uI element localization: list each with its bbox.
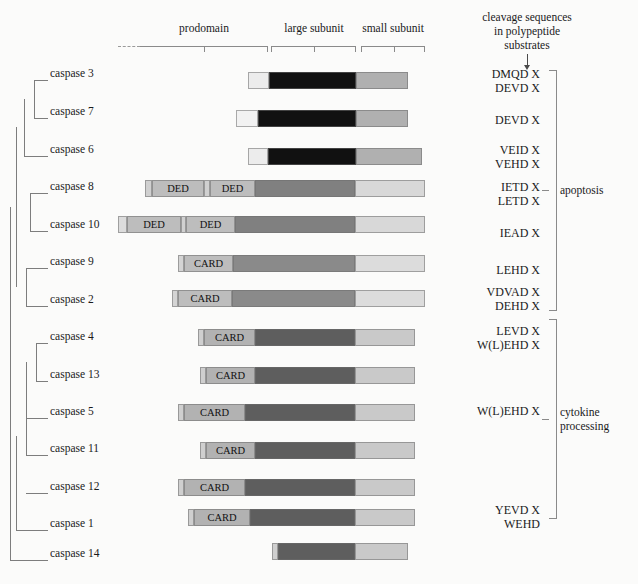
group-tick-apoptosis — [542, 190, 549, 191]
cleavage-header-line2: in polypeptide — [468, 24, 586, 38]
segment-prodomain-caspase-3 — [248, 72, 269, 89]
segment-small-subunit-caspase-11 — [355, 442, 415, 459]
segment-small-subunit-caspase-9 — [355, 255, 425, 272]
protein-bar-caspase-11[interactable]: CARD — [0, 442, 638, 459]
segment-large-subunit-caspase-14 — [278, 543, 355, 560]
protein-bar-caspase-7[interactable] — [0, 110, 638, 127]
segment-card-caspase-12: CARD — [184, 479, 245, 496]
group-label-apoptosis: apoptosis — [560, 183, 603, 197]
segment-large-subunit-caspase-9 — [233, 255, 355, 272]
segment-large-subunit-caspase-13 — [255, 367, 355, 384]
segment-small-subunit-caspase-12 — [355, 479, 415, 496]
segment-prodomain-cap-caspase-10 — [118, 216, 127, 233]
cleavage-sequence-caspase-1-1: YEVD X — [440, 503, 540, 518]
segment-large-subunit-caspase-8 — [255, 180, 355, 197]
segment-card-caspase-9: CARD — [184, 255, 233, 272]
segment-small-subunit-caspase-10 — [355, 216, 425, 233]
segment-small-subunit-caspase-5 — [355, 404, 415, 421]
segment-small-subunit-caspase-2 — [355, 290, 425, 307]
group-label-cytokine-processing: cytokine processing — [560, 405, 609, 433]
cleavage-sequence-caspase-7-1: DEVD X — [440, 113, 540, 128]
cleavage-sequence-caspase-9-1: LEHD X — [440, 263, 540, 278]
protein-bar-caspase-6[interactable] — [0, 148, 638, 165]
protein-bar-caspase-10[interactable]: DEDDED — [0, 216, 638, 233]
cleavage-sequence-caspase-6-1: VEID X — [440, 143, 540, 158]
segment-large-subunit-caspase-5 — [245, 404, 355, 421]
protein-bar-caspase-1[interactable]: CARD — [0, 509, 638, 526]
ruler-bracket-prodomain — [140, 46, 268, 52]
cleavage-sequence-caspase-2-2: DEHD X — [440, 299, 540, 314]
segment-large-subunit-caspase-1 — [250, 509, 355, 526]
segment-small-subunit-caspase-3 — [356, 72, 408, 89]
group-bracket-apoptosis — [549, 70, 557, 311]
ruler-tick-prodomain — [204, 47, 205, 52]
cleavage-sequence-caspase-5-1: W(L)EHD X — [440, 404, 540, 419]
group-label-cytokine-line2: processing — [560, 419, 609, 433]
segment-ded-2-caspase-8: DED — [210, 180, 255, 197]
cleavage-sequence-caspase-1-2: WEHD — [440, 517, 540, 532]
protein-bar-caspase-14[interactable] — [0, 543, 638, 560]
cleavage-sequence-caspase-2-1: VDVAD X — [440, 285, 540, 300]
cleavage-sequence-caspase-8-2: LETD X — [440, 194, 540, 209]
cleavage-header-line1: cleavage sequences — [468, 10, 586, 24]
protein-bar-caspase-13[interactable]: CARD — [0, 367, 638, 384]
segment-small-subunit-caspase-6 — [356, 148, 422, 165]
segment-card-caspase-13: CARD — [206, 367, 255, 384]
segment-large-subunit-caspase-6 — [268, 148, 356, 165]
ruler-label-small-subunit: small subunit — [360, 22, 426, 34]
cleavage-sequence-caspase-8-1: IETD X — [440, 180, 540, 195]
segment-small-subunit-caspase-14 — [355, 543, 408, 560]
cleavage-sequence-caspase-3-1: DMQD X — [440, 67, 540, 82]
protein-bar-caspase-4[interactable]: CARD — [0, 329, 638, 346]
segment-card-caspase-5: CARD — [184, 404, 245, 421]
segment-large-subunit-caspase-10 — [235, 216, 355, 233]
cleavage-header-line3: substrates — [468, 38, 586, 52]
group-bracket-cytokine-processing — [549, 319, 557, 519]
segment-small-subunit-caspase-8 — [355, 180, 425, 197]
ruler-bracket-small-subunit — [361, 46, 425, 52]
ruler-bracket-large-subunit — [271, 46, 356, 52]
segment-small-subunit-caspase-13 — [355, 367, 415, 384]
tree-branch-horizontal — [16, 530, 48, 531]
group-tick-cytokine-processing — [542, 419, 549, 420]
segment-ded-2-caspase-10: DED — [186, 216, 235, 233]
protein-bar-caspase-8[interactable]: DEDDED — [0, 180, 638, 197]
segment-large-subunit-caspase-7 — [258, 110, 356, 127]
cleavage-sequence-caspase-4-2: W(L)EHD X — [440, 338, 540, 353]
segment-prodomain-caspase-6 — [248, 148, 268, 165]
ruler-label-large-subunit: large subunit — [270, 22, 358, 34]
segment-large-subunit-caspase-2 — [232, 290, 355, 307]
segment-ded-1-caspase-8: DED — [152, 180, 204, 197]
ruler-tick-large-subunit — [314, 47, 315, 52]
ruler-tick-small-subunit — [394, 47, 395, 52]
segment-prodomain-cap-caspase-8 — [145, 180, 152, 197]
tree-branch-horizontal — [10, 560, 48, 561]
cleavage-sequence-caspase-10-1: IEAD X — [440, 226, 540, 241]
segment-large-subunit-caspase-11 — [255, 442, 355, 459]
cleavage-header: cleavage sequences in polypeptide substr… — [468, 10, 586, 52]
protein-bar-caspase-3[interactable] — [0, 72, 638, 89]
segment-large-subunit-caspase-12 — [245, 479, 355, 496]
segment-small-subunit-caspase-7 — [356, 110, 408, 127]
segment-small-subunit-caspase-4 — [355, 329, 415, 346]
caspase-family-diagram: cleavage sequences in polypeptide substr… — [0, 0, 638, 584]
segment-card-caspase-2: CARD — [178, 290, 232, 307]
segment-prodomain-caspase-7 — [236, 110, 258, 127]
cleavage-sequence-caspase-6-2: VEHD X — [440, 157, 540, 172]
ruler-dashed-prefix — [118, 46, 140, 47]
cleavage-sequence-caspase-4-1: LEVD X — [440, 324, 540, 339]
ruler-label-prodomain: prodomain — [140, 22, 268, 34]
segment-card-caspase-1: CARD — [194, 509, 250, 526]
cleavage-sequence-caspase-3-2: DEVD X — [440, 81, 540, 96]
protein-bar-caspase-12[interactable]: CARD — [0, 479, 638, 496]
segment-large-subunit-caspase-4 — [255, 329, 355, 346]
segment-large-subunit-caspase-3 — [269, 72, 356, 89]
protein-bar-caspase-2[interactable]: CARD — [0, 290, 638, 307]
segment-card-caspase-4: CARD — [204, 329, 255, 346]
segment-card-caspase-11: CARD — [206, 442, 255, 459]
protein-bar-caspase-9[interactable]: CARD — [0, 255, 638, 272]
group-label-cytokine-line1: cytokine — [560, 405, 609, 419]
segment-small-subunit-caspase-1 — [355, 509, 415, 526]
segment-ded-1-caspase-10: DED — [127, 216, 181, 233]
